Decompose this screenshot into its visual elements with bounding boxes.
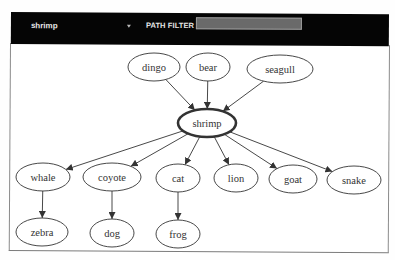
node-label: lion <box>228 173 245 184</box>
edge-shrimp-lion <box>214 137 229 165</box>
edge-shrimp-whale <box>66 131 183 170</box>
node-seagull[interactable]: seagull <box>247 55 313 83</box>
edge-shrimp-cat <box>185 137 200 165</box>
node-label: snake <box>342 175 366 186</box>
edge-shrimp-goat <box>224 134 277 168</box>
edge-bear-shrimp <box>207 81 208 109</box>
graph-viewer: shrimp PATH FILTER dingobearseagullshrim… <box>0 0 395 260</box>
edge-dingo-shrimp <box>166 79 195 110</box>
node-coyote[interactable]: coyote <box>83 163 141 191</box>
graph-edges <box>42 79 332 220</box>
node-label: whale <box>30 172 55 183</box>
node-label: cat <box>172 173 184 184</box>
node-label: coyote <box>98 172 126 183</box>
graph-canvas: dingobearseagullshrimpwhalecoyotecatlion… <box>0 0 395 260</box>
node-cat[interactable]: cat <box>156 164 200 192</box>
node-snake[interactable]: snake <box>327 166 381 194</box>
node-label: shrimp <box>192 118 221 129</box>
node-goat[interactable]: goat <box>269 165 317 193</box>
node-label: zebra <box>31 227 54 238</box>
node-dingo[interactable]: dingo <box>128 53 180 81</box>
node-label: goat <box>284 174 302 185</box>
node-dog[interactable]: dog <box>90 219 134 247</box>
node-whale[interactable]: whale <box>16 163 70 191</box>
graph-nodes: dingobearseagullshrimpwhalecoyotecatlion… <box>16 53 381 248</box>
node-label: bear <box>199 62 218 73</box>
edge-seagull-shrimp <box>223 81 264 111</box>
node-lion[interactable]: lion <box>214 164 258 192</box>
node-bear[interactable]: bear <box>186 53 230 81</box>
node-frog[interactable]: frog <box>156 220 200 248</box>
node-label: dog <box>104 228 121 239</box>
node-label: frog <box>169 229 187 240</box>
node-label: seagull <box>265 64 295 75</box>
node-shrimp[interactable]: shrimp <box>178 109 236 137</box>
node-zebra[interactable]: zebra <box>16 218 68 246</box>
node-label: dingo <box>142 62 166 73</box>
